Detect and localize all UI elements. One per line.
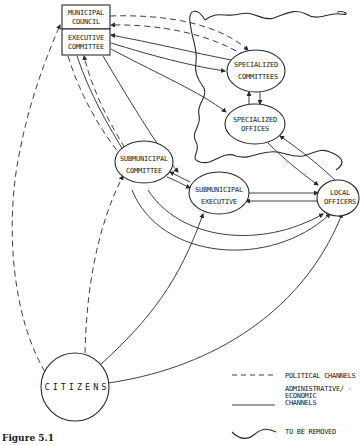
- submunicipal-committee-node: SUBMUNICIPAL COMMITTEE: [115, 141, 173, 183]
- admin-local-spoffices: [280, 136, 340, 185]
- governance-diagram: MUNICIPAL COUNCIL EXECUTIVE COMMITTEE SP…: [0, 0, 363, 445]
- svg-text:CITIZENS: CITIZENS: [45, 382, 110, 392]
- admin-exec-spcommittees: [111, 43, 225, 71]
- political-subcommittee-exec: [84, 56, 130, 156]
- svg-text:COMMITTEE: COMMITTEE: [126, 167, 162, 175]
- figure-caption: Figure 5.1: [2, 433, 54, 443]
- svg-text:SPECIALIZED: SPECIALIZED: [234, 61, 278, 69]
- svg-text:SPECIALIZED: SPECIALIZED: [233, 116, 277, 124]
- svg-text:MUNICIPAL: MUNICIPAL: [68, 9, 104, 17]
- admin-subexec-subcommittee: [170, 172, 190, 182]
- admin-exec-subcommittee: [77, 56, 126, 155]
- citizens-node: CITIZENS: [41, 353, 109, 421]
- local-officers-node: LOCAL OFFICERS: [317, 180, 359, 216]
- political-spcommittees-council: [111, 25, 245, 56]
- admin-exec-spoffices: [111, 49, 226, 112]
- svg-text:OFFICERS: OFFICERS: [324, 198, 356, 206]
- political-citizens-council: [12, 25, 60, 380]
- svg-text:CHANNELS: CHANNELS: [285, 399, 316, 407]
- admin-spoffices-local: [268, 143, 318, 185]
- admin-subcommittee-subexec: [167, 177, 190, 188]
- submunicipal-executive-node: SUBMUNICIPAL EXECUTIVE: [189, 172, 249, 214]
- political-exec-subcommittee: [68, 56, 123, 158]
- svg-text:COMMITTEE: COMMITTEE: [68, 43, 104, 51]
- political-council-spcommittees: [110, 16, 248, 50]
- svg-text:SUBMUNICIPAL: SUBMUNICIPAL: [120, 155, 168, 163]
- specialized-committees-node: SPECIALIZED COMMITTEES: [227, 50, 285, 92]
- svg-text:COMMITTEES: COMMITTEES: [238, 73, 278, 81]
- legend: POLITICAL CHANNELS ADMINISTRATIVE/ - ECO…: [232, 372, 356, 438]
- svg-text:COUNCIL: COUNCIL: [72, 18, 100, 26]
- svg-text:SUBMUNICIPAL: SUBMUNICIPAL: [195, 186, 243, 194]
- admin-citizens-local: [108, 214, 342, 383]
- executive-committee-node: EXECUTIVE COMMITTEE: [62, 29, 110, 55]
- svg-text:TO BE REMOVED: TO BE REMOVED: [285, 428, 336, 436]
- municipal-council-node: MUNICIPAL COUNCIL: [62, 5, 110, 29]
- admin-spcommittees-exec: [111, 35, 231, 60]
- svg-text:EXECUTIVE: EXECUTIVE: [68, 34, 104, 42]
- specialized-offices-node: SPECIALIZED OFFICES: [225, 104, 285, 144]
- svg-text:EXECUTIVE: EXECUTIVE: [201, 198, 237, 206]
- admin-citizens-subexec: [100, 214, 203, 365]
- svg-text:POLITICAL CHANNELS: POLITICAL CHANNELS: [285, 372, 356, 380]
- svg-text:OFFICES: OFFICES: [241, 125, 269, 133]
- political-citizens-subcommittee: [85, 176, 123, 363]
- svg-text:LOCAL: LOCAL: [330, 189, 350, 197]
